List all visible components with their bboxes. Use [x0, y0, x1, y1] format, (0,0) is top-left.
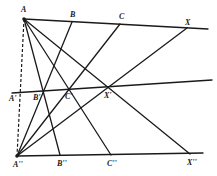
line-a-x2 [24, 19, 190, 154]
label-x2: X'' [186, 158, 198, 167]
label-b1: B' [32, 93, 41, 102]
label-a1: A' [8, 94, 17, 103]
label-c1: C' [65, 92, 73, 101]
label-x: X [184, 18, 191, 27]
label-b: B [69, 10, 76, 19]
line-top [24, 19, 208, 29]
label-c: C [119, 12, 125, 21]
point-a [22, 17, 26, 21]
point-a2 [15, 154, 19, 158]
label-x1: X' [103, 91, 112, 100]
label-a2: A'' [12, 160, 24, 169]
label-b2: B'' [56, 159, 68, 168]
label-a: A [20, 5, 27, 14]
line-a-b2 [24, 19, 60, 155]
line-dashed-a-a2 [17, 19, 24, 156]
projective-diagram: A B C X A' B' C' X' A'' B'' C'' X'' [0, 0, 217, 176]
label-c2: C'' [107, 159, 118, 168]
